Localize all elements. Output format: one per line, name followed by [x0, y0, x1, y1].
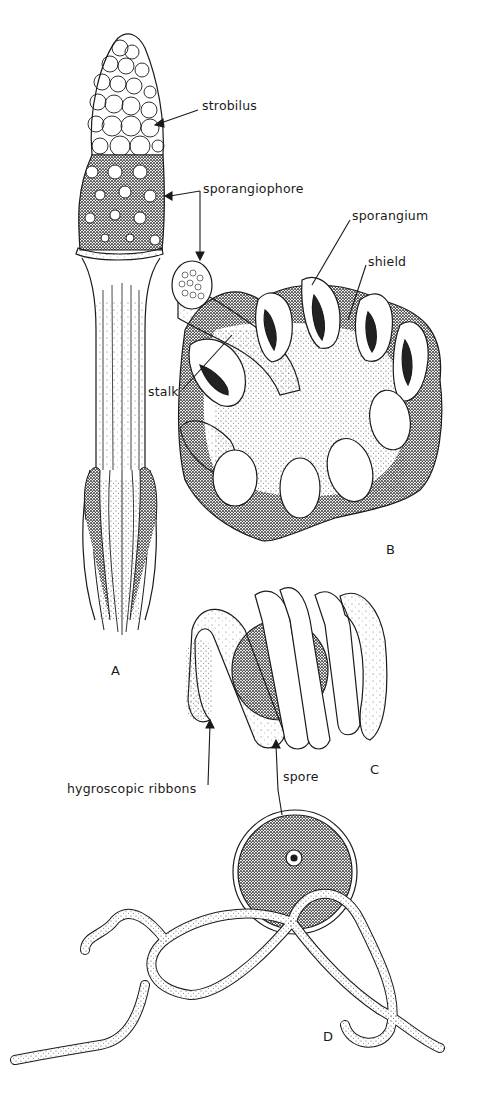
panel-d-uncoiled-spore-drawing	[15, 810, 440, 1060]
panel-label-d: D	[323, 1030, 333, 1043]
panel-label-c: C	[370, 763, 379, 776]
panel-a-strobilus-drawing	[76, 34, 164, 635]
label-hygroscopic-ribbons: hygroscopic ribbons	[67, 783, 196, 796]
label-strobilus: strobilus	[202, 100, 257, 113]
label-spore: spore	[283, 771, 319, 784]
panel-label-b: B	[386, 543, 395, 556]
panel-label-a: A	[111, 664, 120, 677]
panel-c-coiled-spore-drawing	[186, 588, 387, 749]
illustration	[0, 0, 479, 1116]
label-shield: shield	[368, 256, 406, 269]
label-sporangium: sporangium	[352, 210, 428, 223]
label-sporangiophore: sporangiophore	[203, 183, 304, 196]
panel-b-sporangiophore-drawing	[172, 261, 442, 541]
label-stalk: stalk	[148, 386, 179, 399]
